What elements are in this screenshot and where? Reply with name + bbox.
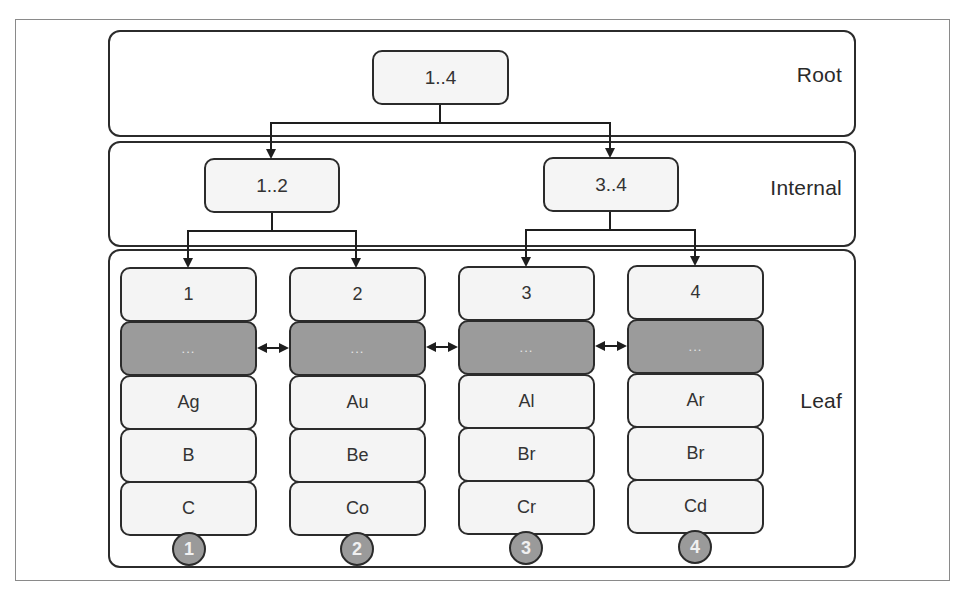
leaf-key: Co bbox=[289, 481, 426, 536]
callout-badge: 3 bbox=[509, 531, 543, 565]
root-level-label: Root bbox=[797, 63, 842, 87]
leaf-key: Ar bbox=[627, 373, 764, 428]
leaf-key: Cr bbox=[458, 480, 595, 535]
leaf-header: 1 bbox=[120, 267, 257, 322]
callout-badge: 2 bbox=[340, 532, 374, 566]
leaf-key: B bbox=[120, 428, 257, 483]
leaf-key: C bbox=[120, 481, 257, 536]
leaf-level-label: Leaf bbox=[800, 389, 842, 413]
leaf-header: 3 bbox=[458, 266, 595, 321]
sibling-pointer-cell: ... bbox=[458, 320, 595, 375]
leaf-header: 2 bbox=[289, 267, 426, 322]
internal-node-1: 1..2 bbox=[204, 158, 340, 213]
root-node: 1..4 bbox=[372, 50, 509, 105]
leaf-key: Au bbox=[289, 375, 426, 430]
sibling-pointer-cell: ... bbox=[627, 319, 764, 374]
sibling-pointer-cell: ... bbox=[120, 321, 257, 376]
leaf-key: Br bbox=[458, 427, 595, 482]
leaf-key: Be bbox=[289, 428, 426, 483]
leaf-key: Al bbox=[458, 374, 595, 429]
internal-node-2: 3..4 bbox=[543, 157, 679, 212]
leaf-key: Cd bbox=[627, 479, 764, 534]
callout-badge: 4 bbox=[678, 530, 712, 564]
leaf-key: Br bbox=[627, 426, 764, 481]
leaf-header: 4 bbox=[627, 265, 764, 320]
callout-badge: 1 bbox=[172, 532, 206, 566]
leaf-key: Ag bbox=[120, 375, 257, 430]
sibling-pointer-cell: ... bbox=[289, 321, 426, 376]
internal-level-label: Internal bbox=[770, 176, 842, 200]
